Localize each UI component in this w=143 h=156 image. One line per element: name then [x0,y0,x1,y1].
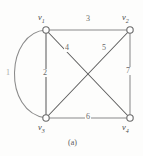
vertex-label-v3: v3 [38,123,45,134]
vertex-label-v1: v1 [38,13,45,24]
edge-weight-6: 6 [85,113,91,121]
edge-weight-1: 1 [5,69,11,77]
node-v3[interactable] [43,115,49,121]
vertex-label-v2: v2 [122,13,129,24]
figure-container: v1 v2 v3 v4 1 2 3 4 5 6 7 (a) [0,0,143,156]
vertex-label-v4: v4 [122,123,129,134]
edge-weight-4: 4 [64,44,70,52]
node-v1[interactable] [43,27,49,33]
figure-caption: (a) [68,139,77,147]
edge-weight-2: 2 [42,69,48,77]
node-v4[interactable] [127,115,133,121]
edge-weight-3: 3 [85,15,91,23]
edge-weight-5: 5 [101,44,107,52]
node-v2[interactable] [127,27,133,33]
edge-weight-7: 7 [125,67,131,75]
